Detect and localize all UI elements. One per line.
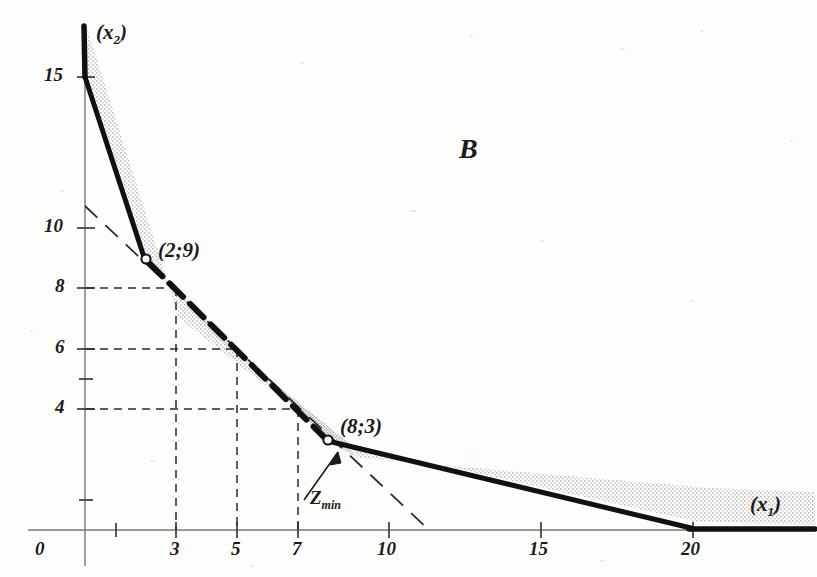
vertex-label-8-3: (8;3) [340, 414, 382, 439]
y-axis-label: (x2) [96, 20, 127, 48]
x-axis-label: (x1) [750, 492, 781, 520]
x-tick-label-5: 5 [231, 538, 241, 560]
shaded-region [85, 22, 815, 525]
y-tick-label-8: 8 [55, 275, 65, 297]
y-tick-label-4: 4 [55, 396, 65, 418]
y-tick-label-15: 15 [44, 64, 63, 86]
vertex-8-3 [323, 435, 332, 444]
region-label-B: B [459, 133, 478, 165]
figure-canvas: 15 10 8 6 4 0 3 5 7 10 15 20 (x2) (x1) B… [0, 0, 817, 577]
vertex-2-9 [141, 254, 150, 263]
y-tick-label-6: 6 [55, 336, 65, 358]
x-tick-label-3: 3 [170, 538, 180, 560]
x-tick-label-10: 10 [377, 538, 396, 560]
x-tick-label-7: 7 [292, 538, 302, 560]
y-tick-label-10: 10 [44, 215, 63, 237]
zmin-label: Zmin [310, 487, 341, 513]
vertex-label-2-9: (2;9) [158, 238, 200, 263]
x-tick-label-0: 0 [35, 538, 45, 560]
plot-svg [0, 0, 817, 577]
x-tick-label-15: 15 [529, 538, 548, 560]
x-tick-label-20: 20 [681, 538, 700, 560]
constraint-boundary [84, 26, 815, 529]
